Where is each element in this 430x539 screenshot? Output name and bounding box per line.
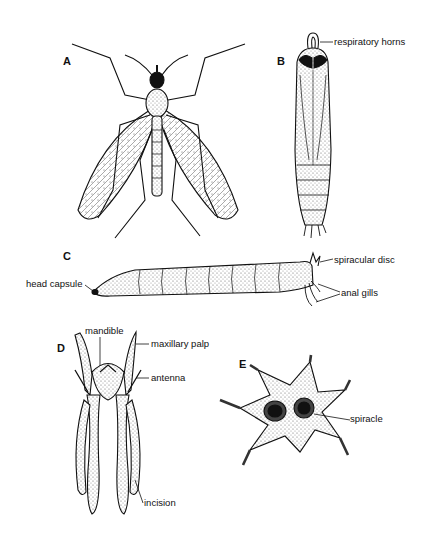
panel-letter-e: E — [239, 358, 246, 370]
panel-letter-c: C — [63, 250, 71, 262]
larva-drawing — [85, 253, 340, 306]
label-spiracular-disc: spiracular disc — [334, 254, 395, 265]
label-antenna: antenna — [151, 372, 185, 383]
label-mandible: mandible — [85, 325, 124, 336]
pupa-drawing — [295, 33, 333, 238]
spiracular-disc-drawing — [220, 355, 350, 465]
panel-letter-a: A — [63, 55, 71, 67]
label-maxillary-palp: maxillary palp — [151, 338, 209, 349]
adult-crane-fly-drawing — [72, 44, 245, 238]
panel-letter-d: D — [57, 342, 65, 354]
label-anal-gills: anal gills — [341, 287, 378, 298]
label-incision: incision — [144, 497, 176, 508]
figure-artwork — [0, 0, 430, 539]
larval-head-capsule-drawing — [75, 332, 149, 514]
panel-letter-b: B — [277, 55, 285, 67]
label-spiracle: spiracle — [350, 413, 383, 424]
label-head-capsule: head capsule — [26, 278, 83, 289]
label-respiratory-horns: respiratory horns — [334, 36, 405, 47]
